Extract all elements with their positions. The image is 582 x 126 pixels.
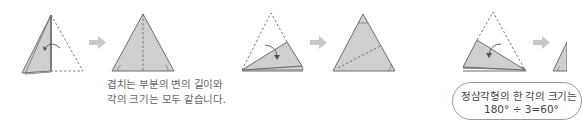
step3-fold-corner	[242, 13, 303, 71]
step2-triangle	[112, 14, 174, 71]
next-arrow-2-icon	[310, 36, 327, 49]
next-arrow-1-icon	[89, 36, 106, 49]
step6-partial-triangle	[553, 42, 567, 71]
next-arrow-3-icon	[533, 36, 550, 49]
step5-fold-corner	[463, 12, 526, 71]
bubble-line-1: 정삼각형의 한 각의 크기는	[461, 88, 577, 103]
bubble-line-2: 180° ÷ 3=60°	[484, 103, 559, 115]
step1-folded-triangle	[22, 15, 83, 74]
caption-line-1: 겹치는 부분의 변의 길이와	[107, 77, 226, 92]
caption-line-2: 각의 크기는 모두 같습니다.	[107, 92, 226, 107]
overlap-caption: 겹치는 부분의 변의 길이와 각의 크기는 모두 같습니다.	[107, 77, 226, 107]
